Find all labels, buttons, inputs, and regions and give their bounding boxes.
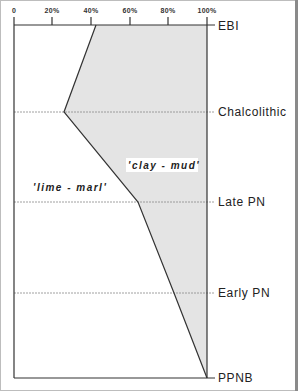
- tick-40: 40%: [84, 7, 99, 14]
- period-late-pn: Late PN: [218, 195, 266, 209]
- tick-0: 0: [12, 7, 16, 14]
- tick-80: 80%: [161, 7, 176, 14]
- lime-marl-label: 'lime - marl': [33, 182, 107, 193]
- period-ppnb: PPNB: [218, 371, 253, 385]
- period-early-pn: Early PN: [218, 286, 270, 300]
- clay-mud-label: 'clay - mud': [128, 160, 200, 171]
- tick-100: 100%: [197, 7, 217, 14]
- tick-20: 20%: [45, 7, 60, 14]
- period-chalcolithic: Chalcolithic: [218, 105, 287, 119]
- clay-mud-area: [64, 25, 207, 378]
- stratigraphic-chart: 0 20% 40% 60% 80% 100% EBI Chalcolithic …: [0, 0, 298, 391]
- period-ebi: EBI: [218, 19, 239, 33]
- tick-60: 60%: [123, 7, 138, 14]
